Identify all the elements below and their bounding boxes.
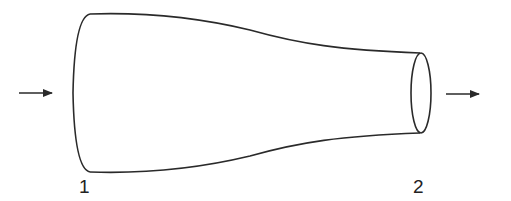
outlet-face	[411, 53, 431, 133]
top-wall	[90, 14, 420, 53]
bottom-wall	[90, 133, 420, 172]
inlet-face	[73, 14, 90, 172]
duct-diagram	[0, 0, 511, 201]
duct-body	[73, 14, 431, 173]
diagram-canvas: 1 2	[0, 0, 511, 201]
section-label-outlet: 2	[413, 177, 424, 196]
section-label-inlet: 1	[79, 177, 90, 196]
